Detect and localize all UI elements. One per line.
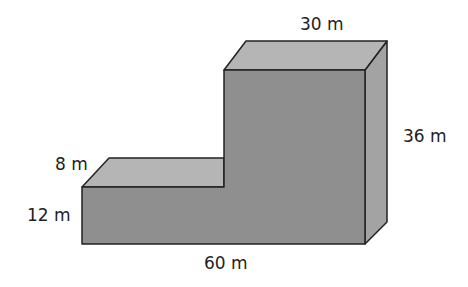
tall-block-top-face	[224, 41, 387, 70]
top-width-label: 30 m	[300, 14, 344, 34]
low-depth-label: 8 m	[55, 154, 88, 174]
low-block-top-face	[82, 158, 224, 187]
tall-height-label: 36 m	[403, 126, 447, 146]
low-height-label: 12 m	[27, 205, 71, 225]
tall-block-side-face	[365, 41, 387, 244]
l-shaped-solid-figure	[0, 0, 468, 287]
total-length-label: 60 m	[204, 253, 248, 273]
front-face	[82, 70, 365, 244]
